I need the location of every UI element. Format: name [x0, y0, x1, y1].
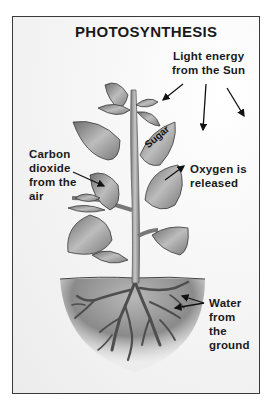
oxygen-label: Oxygen is released: [190, 162, 247, 190]
water-label: Water from the ground: [209, 296, 250, 352]
arrow-light-down: [203, 84, 206, 130]
carbon-dioxide-label: Carbon dioxide from the air: [29, 147, 77, 203]
light-energy-label: Light energy from the Sun: [172, 49, 245, 77]
arrow-light-to-sugar-leaf: [163, 84, 183, 100]
leaves: [68, 83, 189, 263]
diagram-title: PHOTOSYNTHESIS: [75, 25, 217, 39]
arrow-light-down-right: [227, 88, 244, 116]
